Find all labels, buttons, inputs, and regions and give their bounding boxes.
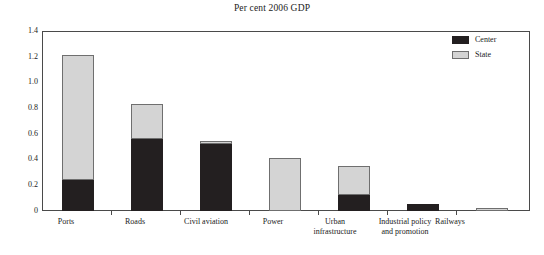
bar-segment-center [338,195,370,211]
x-tick-mark [456,211,457,215]
y-axis-labels: 1.4 1.2 1.0 0.8 0.6 0.4 0.2 0 [0,0,38,255]
legend-entry-state[interactable]: State [452,48,526,61]
y-tick-label: 0.2 [28,181,38,189]
bar-ports[interactable] [62,55,94,211]
x-label-railways: Railways [419,217,481,227]
state-swatch-icon [452,51,469,59]
y-tick-label: 0.6 [28,130,38,138]
bar-segment-center [131,139,163,211]
y-tick-label: 1.4 [28,27,38,35]
chart-legend: Center State [452,33,526,63]
x-label-ports: Ports [35,217,97,227]
bar-segment-center [200,144,232,212]
x-label-civil-aviation: Civil aviation [166,217,246,227]
chart-title: Per cent 2006 GDP [0,3,544,13]
y-tick-label: 0.4 [28,155,38,163]
bar-urban-infrastructure[interactable] [338,166,370,211]
bar-segment-state [131,104,163,139]
chart-figure: Per cent 2006 GDP 1.4 1.2 1.0 0.8 0.6 0.… [0,0,544,255]
bar-civil-aviation[interactable] [200,141,232,211]
bar-segment-state [338,166,370,195]
center-swatch-icon [452,36,469,44]
x-tick-mark [180,211,181,215]
bar-roads[interactable] [131,104,163,211]
y-tick-label: 1.2 [28,53,38,61]
legend-entry-center[interactable]: Center [452,33,526,46]
legend-label-state: State [475,50,491,59]
x-label-roads: Roads [104,217,166,227]
bar-segment-center [62,180,94,211]
bar-segment-center [407,204,439,211]
x-tick-mark [111,211,112,215]
bar-segment-state [62,55,94,180]
x-tick-mark [387,211,388,215]
y-tick-label: 0 [34,207,38,215]
bar-segment-state [476,208,508,211]
bar-industrial-policy-and-promotion[interactable] [407,204,439,211]
bar-power[interactable] [269,158,301,211]
bar-railways[interactable] [476,208,508,211]
y-tick-label: 0.8 [28,104,38,112]
legend-label-center: Center [475,35,496,44]
y-tick-label: 1.0 [28,78,38,86]
bar-segment-state [269,158,301,211]
x-tick-mark [318,211,319,215]
x-tick-mark [249,211,250,215]
